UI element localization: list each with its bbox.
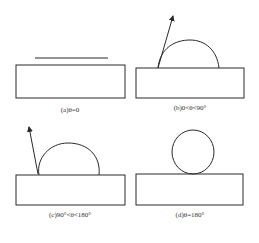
caption-a: (a)θ=0	[61, 106, 80, 114]
substrate-rect	[16, 175, 125, 205]
contact-angle-arrow	[29, 127, 38, 174]
panel-c	[16, 127, 125, 205]
contact-angle-diagram	[0, 0, 259, 243]
panel-d	[136, 130, 243, 205]
droplet-dome	[39, 143, 100, 175]
caption-b: (b)0<θ<90°	[174, 104, 207, 112]
droplet-dome	[158, 40, 219, 68]
substrate-rect	[136, 68, 244, 98]
contact-angle-arrow	[158, 16, 173, 68]
spherical-droplet	[172, 130, 214, 174]
caption-d: (d)θ=180°	[176, 211, 205, 219]
substrate-rect	[16, 65, 125, 98]
caption-c: (c)90°<θ<180°	[49, 211, 91, 219]
panel-a	[16, 58, 125, 98]
substrate-rect	[136, 174, 243, 205]
panel-b	[136, 16, 244, 98]
